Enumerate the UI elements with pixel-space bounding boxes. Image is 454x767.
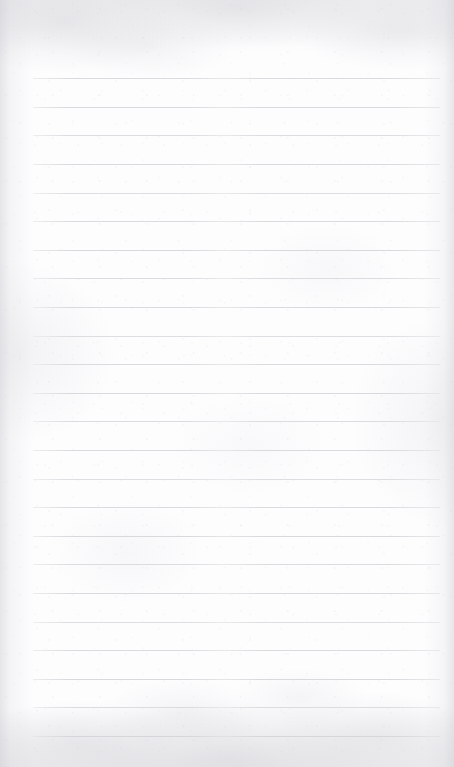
ruled-line [33,707,440,708]
ruled-line [33,507,440,508]
lined-paper-page [0,0,454,767]
ruled-line [33,193,440,194]
ruled-line [33,221,440,222]
ruled-line [33,679,440,680]
ruled-line [33,536,440,537]
ruled-line [33,393,440,394]
ruled-line [33,278,440,279]
ruled-line [33,736,440,737]
ruled-line [33,78,440,79]
ruled-line [33,450,440,451]
ruled-line [33,479,440,480]
ruled-line [33,307,440,308]
ruled-line [33,622,440,623]
ruled-line [33,135,440,136]
ruled-line [33,650,440,651]
ruled-line [33,421,440,422]
ruled-line [33,250,440,251]
ruled-line [33,107,440,108]
ruled-line [33,364,440,365]
ruled-line [33,336,440,337]
ruled-line [33,564,440,565]
ruled-line [33,164,440,165]
ruled-line [33,593,440,594]
ruled-lines-layer [0,0,454,767]
